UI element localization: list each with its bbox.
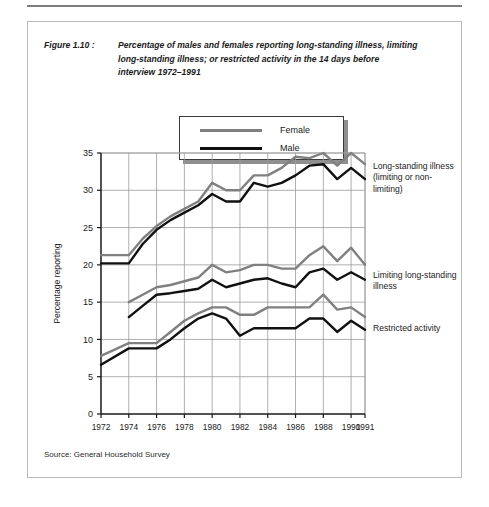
source-note: Source: General Household Survey bbox=[44, 450, 170, 459]
svg-text:1986: 1986 bbox=[286, 422, 305, 432]
svg-text:1974: 1974 bbox=[119, 422, 138, 432]
annotation-restricted-activity: Restricted activity bbox=[373, 323, 459, 334]
svg-text:1980: 1980 bbox=[203, 422, 222, 432]
annotation-long-standing-illness: Long-standing illness (limiting or non-l… bbox=[373, 161, 459, 195]
svg-text:35: 35 bbox=[83, 148, 93, 158]
svg-text:30: 30 bbox=[83, 185, 93, 195]
annotation-limiting-long-standing-illness: Limiting long-standing illness bbox=[373, 270, 459, 293]
svg-text:25: 25 bbox=[83, 223, 93, 233]
y-axis-tick-labels: 05101520253035 bbox=[83, 148, 93, 419]
svg-text:1976: 1976 bbox=[147, 422, 166, 432]
svg-text:1972: 1972 bbox=[92, 422, 111, 432]
svg-text:1984: 1984 bbox=[258, 422, 277, 432]
line-chart-svg: 05101520253035 1972197419761978198019821… bbox=[28, 22, 463, 479]
svg-text:20: 20 bbox=[83, 260, 93, 270]
svg-text:1988: 1988 bbox=[314, 422, 333, 432]
svg-text:0: 0 bbox=[88, 409, 93, 419]
chart-plot-area: 05101520253035 1972197419761978198019821… bbox=[28, 22, 463, 479]
chart-series-lines bbox=[101, 153, 365, 365]
top-divider-rule bbox=[27, 5, 462, 7]
svg-text:1982: 1982 bbox=[231, 422, 250, 432]
svg-text:5: 5 bbox=[88, 372, 93, 382]
svg-text:Percentage reporting: Percentage reporting bbox=[52, 243, 62, 323]
svg-text:15: 15 bbox=[83, 297, 93, 307]
chart-axis-frame bbox=[101, 153, 365, 414]
chart-gridlines bbox=[101, 153, 365, 414]
svg-text:1978: 1978 bbox=[175, 422, 194, 432]
svg-text:10: 10 bbox=[83, 335, 93, 345]
x-axis-tick-labels: 1972197419761978198019821984198619881990… bbox=[92, 422, 375, 432]
svg-text:1991: 1991 bbox=[356, 422, 375, 432]
figure-container: Figure 1.10 : Percentage of males and fe… bbox=[27, 21, 462, 478]
y-axis-title: Percentage reporting bbox=[52, 243, 62, 323]
